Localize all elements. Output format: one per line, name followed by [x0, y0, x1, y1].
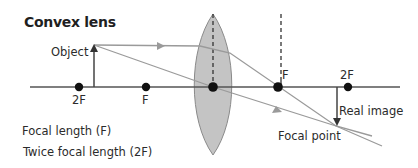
diagram-title: Convex lens	[24, 15, 116, 29]
object-label: Object	[51, 47, 88, 59]
left-f-label: F	[142, 95, 149, 107]
left-2f-dot	[75, 83, 83, 91]
ray-arrow-icon	[157, 42, 165, 50]
right-f-label: F	[282, 70, 289, 82]
lens-center-dot	[208, 82, 218, 92]
focal-point-label: Focal point	[278, 131, 341, 143]
right-f-dot	[273, 82, 283, 92]
left-2f-label: 2F	[72, 95, 86, 107]
convex-lens-diagram: Convex lens Object 2F F F 2F Real image …	[0, 0, 418, 168]
legend-twice-focal-length: Twice focal length (2F)	[23, 147, 152, 159]
legend-focal-length: Focal length (F)	[22, 126, 111, 138]
right-2f-dot	[344, 83, 352, 91]
left-f-dot	[142, 83, 150, 91]
real-image-label: Real image	[339, 106, 403, 118]
parallel-ray	[94, 45, 372, 136]
ray-arrow-icon	[272, 106, 282, 113]
right-2f-label: 2F	[340, 70, 354, 82]
